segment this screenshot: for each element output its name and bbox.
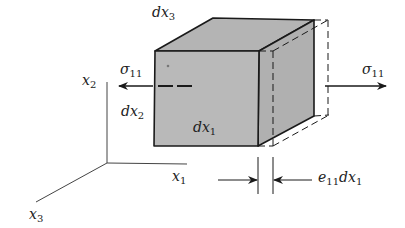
label-dx3: dx3 [152,5,175,22]
axis-x3-line [36,163,107,202]
label-dx1: dx1 [193,120,216,137]
cube-element [154,18,314,146]
label-sigma-left: σ11 [120,62,142,79]
label-axis-x2: x2 [82,73,96,90]
axis-x1-line [107,163,187,164]
face-dot [167,65,170,68]
elongation-dimension [218,157,312,194]
diagram-canvas [0,0,405,228]
label-dx2: dx2 [121,104,144,121]
label-axis-x3: x3 [29,207,43,224]
label-axis-x1: x1 [172,169,186,186]
label-sigma-right: σ11 [362,62,384,79]
label-elongation: e11dx1 [318,170,362,187]
strain-element-diagram: dx3 σ11 x2 dx2 dx1 σ11 x1 x3 e11dx1 [0,0,405,228]
